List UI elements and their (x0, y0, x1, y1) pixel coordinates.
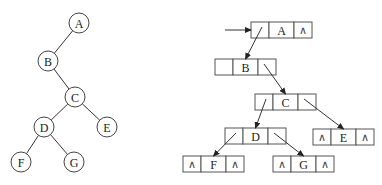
rchild-field (298, 94, 316, 110)
tree-edge-D-G (51, 135, 68, 155)
null-pointer-icon: ∧ (278, 158, 286, 171)
tree-node-label: G (70, 156, 79, 170)
tree-node-label: D (40, 121, 49, 135)
tree-edge-A-B (54, 31, 72, 54)
linked-node-F: F∧∧ (183, 156, 244, 172)
null-pointer-icon: ∧ (321, 158, 329, 171)
linked-node-D: D (225, 128, 286, 144)
tree-edge-C-D (51, 104, 68, 120)
tree-node-A: A (69, 13, 89, 33)
null-pointer-icon: ∧ (299, 24, 307, 37)
tree-node-C: C (65, 87, 85, 107)
node-data-label: F (210, 158, 217, 172)
null-pointer-icon: ∧ (318, 131, 326, 144)
null-pointer-icon: ∧ (231, 158, 239, 171)
tree-edges (26, 31, 99, 155)
tree-node-label: A (75, 17, 84, 31)
tree-node-F: F (11, 152, 31, 172)
tree-edge-D-F (26, 135, 38, 153)
node-data-label: D (251, 130, 260, 144)
tree-node-label: C (71, 91, 79, 105)
lchild-field (215, 59, 233, 75)
node-data-label: A (277, 24, 286, 38)
binary-tree-diagram: ABCDEFG A∧BCDE∧∧F∧∧G∧∧ (0, 0, 382, 185)
linked-node-C: C (255, 94, 316, 110)
tree-node-D: D (34, 117, 54, 137)
tree-node-E: E (97, 117, 117, 137)
linked-node-B: B (215, 59, 276, 75)
rchild-field (268, 128, 286, 144)
linked-node-E: E∧∧ (313, 129, 374, 145)
tree-node-G: G (64, 152, 84, 172)
node-data-label: E (340, 131, 347, 145)
tree-node-label: F (18, 156, 25, 170)
lchild-field (255, 94, 273, 110)
rchild-field (258, 59, 276, 75)
binary-linked-list-nodes: A∧BCDE∧∧F∧∧G∧∧ (183, 22, 374, 172)
tree-edge-B-C (54, 69, 69, 89)
null-pointer-icon: ∧ (361, 131, 369, 144)
node-data-label: B (241, 61, 249, 75)
tree-nodes: ABCDEFG (11, 13, 117, 172)
null-pointer-icon: ∧ (188, 158, 196, 171)
linked-node-G: G∧∧ (273, 156, 334, 172)
tree-node-label: E (103, 121, 110, 135)
tree-edge-C-E (82, 104, 99, 120)
tree-node-B: B (38, 51, 58, 71)
tree-node-label: B (44, 55, 52, 69)
pointer-C-right-to-E (304, 99, 344, 129)
node-data-label: C (281, 96, 289, 110)
node-data-label: G (299, 158, 308, 172)
